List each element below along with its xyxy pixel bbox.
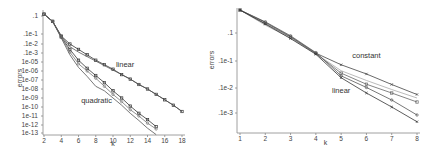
right-y-axis-label: errors — [208, 50, 215, 69]
right-x-tick-label: 5 — [339, 135, 343, 142]
right-x-tick-label: 2 — [263, 135, 267, 142]
figure: 24681012141618.1.1e-1.1e-2.1e-31e-051e-0… — [0, 0, 438, 151]
right-annotation-constant: constant — [352, 51, 381, 60]
right-x-tick-label: 3 — [289, 135, 293, 142]
right-series-linear — [239, 9, 418, 123]
chart-right: 12345678.1.1e-1.1e-2.1e-3kerrorsconstant… — [0, 0, 438, 151]
right-data-point — [365, 92, 367, 94]
right-annotation-linear: linear — [332, 86, 351, 95]
right-data-point — [391, 106, 393, 108]
right-y-tick-label: .1e-2 — [218, 84, 233, 91]
right-series-line — [240, 10, 417, 122]
right-data-point — [416, 121, 418, 123]
right-y-tick-label: .1e-1 — [218, 57, 233, 64]
right-y-tick-label: .1 — [228, 29, 234, 36]
right-x-tick-label: 8 — [415, 135, 419, 142]
right-x-axis-label: k — [324, 139, 328, 146]
right-x-tick-label: 1 — [238, 135, 242, 142]
right-x-tick-label: 7 — [390, 135, 394, 142]
right-y-tick-label: .1e-3 — [218, 109, 233, 116]
right-x-tick-label: 4 — [314, 135, 318, 142]
right-x-tick-label: 6 — [365, 135, 369, 142]
